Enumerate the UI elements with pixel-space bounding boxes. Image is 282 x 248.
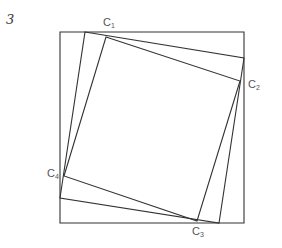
- outer-square: [60, 32, 244, 223]
- label-c4: C4: [47, 167, 59, 180]
- nested-squares-diagram: C1 C2 C3 C4: [0, 0, 282, 248]
- label-c1: C1: [103, 16, 115, 29]
- label-c3: C3: [192, 225, 204, 238]
- inner-square: [64, 37, 240, 221]
- middle-square: [60, 32, 244, 223]
- label-c2: C2: [248, 78, 260, 91]
